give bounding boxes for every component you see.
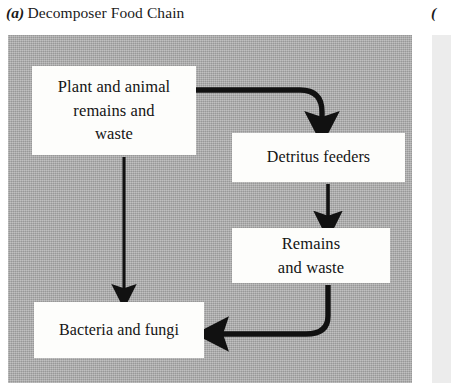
panel-b-background-plate: [432, 35, 451, 383]
figure-panel-a: (a)Decomposer Food Chain ( Plant and ani…: [0, 0, 451, 383]
node-line: Remains: [278, 232, 344, 255]
node-detritus-feeders: Detritus feeders: [232, 133, 405, 182]
node-line: remains and: [58, 99, 171, 122]
panel-a-letter: (a): [6, 4, 24, 21]
node-plant-animal-remains-waste: Plant and animal remains and waste: [32, 66, 196, 155]
node-line: Plant and animal: [58, 75, 171, 98]
panel-b-caption: (: [431, 4, 439, 22]
node-bacteria-and-fungi: Bacteria and fungi: [34, 302, 204, 358]
node-line: and waste: [278, 256, 344, 279]
panel-b-letter: (: [431, 4, 436, 21]
panel-a-caption: (a)Decomposer Food Chain: [6, 4, 184, 22]
panel-a-title: Decomposer Food Chain: [27, 4, 184, 21]
node-line: Detritus feeders: [267, 146, 370, 169]
node-remains-and-waste: Remains and waste: [232, 228, 390, 283]
node-line: Bacteria and fungi: [59, 319, 179, 342]
node-line: waste: [58, 122, 171, 145]
